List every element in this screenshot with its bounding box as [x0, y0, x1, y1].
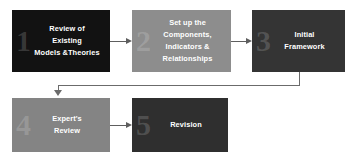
step-label-5: Revision — [132, 119, 228, 131]
elbow-connector-vertical-segment — [299, 72, 300, 86]
arrow-down-icon-step3-step4 — [54, 90, 62, 96]
flowchart-canvas: 1 Review of Existing Models &Theories 2 … — [0, 0, 358, 165]
arrow-right-icon-step4-step5 — [110, 119, 132, 131]
elbow-connector-horizontal-segment — [58, 85, 300, 86]
flowchart-node-step-4[interactable]: 4 Expert's Review — [12, 98, 110, 152]
arrow-right-icon-step1-step2 — [110, 35, 132, 47]
arrow-shaft — [110, 125, 126, 126]
arrow-shaft — [231, 41, 246, 42]
flowchart-node-step-5[interactable]: 5 Revision — [132, 98, 228, 152]
step-label-2: Set up the Components, Indicators & Rela… — [132, 17, 231, 66]
step-label-1: Review of Existing Models &Theories — [12, 23, 110, 60]
arrow-right-icon-step2-step3 — [231, 35, 252, 47]
step-label-3: Initial Framework — [252, 29, 345, 53]
flowchart-node-step-1[interactable]: 1 Review of Existing Models &Theories — [12, 10, 110, 72]
step-label-4: Expert's Review — [12, 113, 110, 137]
arrow-shaft — [110, 41, 126, 42]
flowchart-node-step-2[interactable]: 2 Set up the Components, Indicators & Re… — [132, 10, 231, 72]
flowchart-node-step-3[interactable]: 3 Initial Framework — [252, 10, 345, 72]
